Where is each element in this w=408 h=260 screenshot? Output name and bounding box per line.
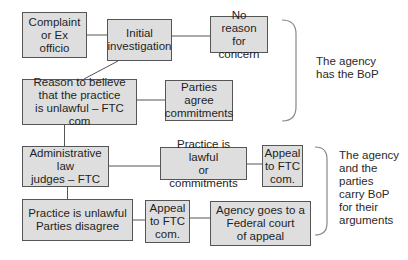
node-parties-agree: Parties agree commitments bbox=[165, 80, 233, 121]
node-appeal-bottom: Appeal to FTC com. bbox=[145, 200, 190, 243]
brace-top-icon bbox=[282, 20, 296, 121]
node-federal-court: Agency goes to a Federal court of appeal bbox=[210, 201, 311, 246]
node-admin-law-judges: Administrative law judges – FTC bbox=[22, 146, 109, 187]
diagram-canvas: Complaint or Ex officio Initial investig… bbox=[0, 0, 408, 260]
annotation-agency-parties-bop: The agency and the parties carry BoP for… bbox=[339, 149, 399, 227]
node-practice-lawful: Practice is lawful or commitments bbox=[160, 147, 247, 180]
brace-bottom-icon bbox=[315, 147, 327, 235]
node-complaint: Complaint or Ex officio bbox=[22, 12, 87, 58]
node-practice-unlawful: Practice is unlawful Parties disagree bbox=[22, 199, 133, 241]
node-initial-investigation: Initial investigation bbox=[107, 19, 172, 61]
node-no-reason: No reason for concern bbox=[210, 16, 268, 53]
node-appeal-top: Appeal to FTC com. bbox=[262, 145, 303, 187]
annotation-agency-bop: The agency has the BoP bbox=[316, 55, 379, 81]
node-reason-to-believe: Reason to believe that the practice is u… bbox=[22, 79, 137, 125]
